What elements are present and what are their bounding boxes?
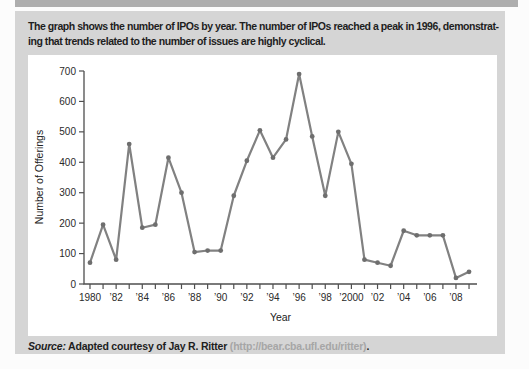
figure-panel: The graph shows the number of IPOs by ye… xyxy=(15,11,505,354)
data-point-1991 xyxy=(231,193,236,198)
data-point-1992 xyxy=(244,158,249,163)
x-tick-label: ’92 xyxy=(240,292,254,303)
data-point-1980 xyxy=(88,260,93,265)
data-point-1984 xyxy=(140,225,145,230)
data-point-2009 xyxy=(467,269,472,274)
x-tick-label: ’90 xyxy=(214,292,228,303)
data-point-1998 xyxy=(323,193,328,198)
y-tick-label: 300 xyxy=(59,187,76,198)
top-strip xyxy=(15,0,518,7)
caption-line-1: The graph shows the number of IPOs by ye… xyxy=(28,19,498,34)
data-point-1997 xyxy=(310,134,315,139)
chart-area: 01002003004005006007001980’82’84’86’88’9… xyxy=(28,55,497,336)
x-axis-title: Year xyxy=(84,311,477,323)
x-tick-label: ’84 xyxy=(136,292,150,303)
data-point-1982 xyxy=(114,257,119,262)
y-tick-label: 700 xyxy=(59,66,76,77)
data-point-1986 xyxy=(166,155,171,160)
data-point-1990 xyxy=(218,248,223,253)
x-tick-label: ’94 xyxy=(266,292,280,303)
axes xyxy=(84,71,477,284)
x-tick-label: ’02 xyxy=(371,292,385,303)
x-tick-label: ’08 xyxy=(449,292,463,303)
data-point-2004 xyxy=(401,228,406,233)
x-tick-label: 1980 xyxy=(79,292,102,303)
x-tick-label: ’2000 xyxy=(339,292,364,303)
data-point-1995 xyxy=(284,137,289,142)
data-point-2002 xyxy=(375,260,380,265)
data-point-1985 xyxy=(153,222,158,227)
data-point-1989 xyxy=(205,248,210,253)
data-point-2000 xyxy=(349,161,354,166)
data-point-1983 xyxy=(127,142,132,147)
data-point-2003 xyxy=(388,263,393,268)
data-point-2001 xyxy=(362,257,367,262)
y-tick-label: 0 xyxy=(70,279,76,290)
y-axis-title: Number of Offerings xyxy=(33,130,45,224)
source-label: Source: xyxy=(28,340,66,352)
figure-caption: The graph shows the number of IPOs by ye… xyxy=(28,19,498,49)
data-point-1987 xyxy=(179,190,184,195)
ipo-trend-line xyxy=(90,74,469,278)
data-point-1993 xyxy=(258,128,263,133)
x-tick-label: ’04 xyxy=(397,292,411,303)
data-point-1996 xyxy=(297,72,302,77)
data-point-2007 xyxy=(440,233,445,238)
data-point-2006 xyxy=(427,233,432,238)
y-tick-label: 500 xyxy=(59,126,76,137)
source-note: Source: Adapted courtesy of Jay R. Ritte… xyxy=(28,340,498,352)
y-tick-label: 200 xyxy=(59,218,76,229)
source-suffix: . xyxy=(366,340,369,352)
caption-line-2: ing that trends related to the number of… xyxy=(28,34,498,49)
x-tick-label: ’88 xyxy=(188,292,202,303)
data-point-1981 xyxy=(101,222,106,227)
x-tick-label: ’06 xyxy=(423,292,437,303)
y-tick-label: 400 xyxy=(59,157,76,168)
data-point-1999 xyxy=(336,129,341,134)
source-url: (http://bear.cba.ufl.edu/ritter) xyxy=(230,340,367,352)
data-point-1988 xyxy=(192,250,197,255)
ipo-line-chart: 01002003004005006007001980’82’84’86’88’9… xyxy=(28,55,497,336)
x-tick-label: ’82 xyxy=(109,292,123,303)
x-tick-label: ’96 xyxy=(292,292,306,303)
y-tick-label: 600 xyxy=(59,96,76,107)
data-point-2005 xyxy=(414,233,419,238)
x-tick-label: ’86 xyxy=(162,292,176,303)
page: { "header": { "caption_line1": "The grap… xyxy=(0,0,529,369)
data-point-2008 xyxy=(454,276,459,281)
data-point-1994 xyxy=(271,155,276,160)
x-tick-label: ’98 xyxy=(319,292,333,303)
y-tick-label: 100 xyxy=(59,248,76,259)
source-text: Adapted courtesy of Jay R. Ritter xyxy=(66,340,230,352)
